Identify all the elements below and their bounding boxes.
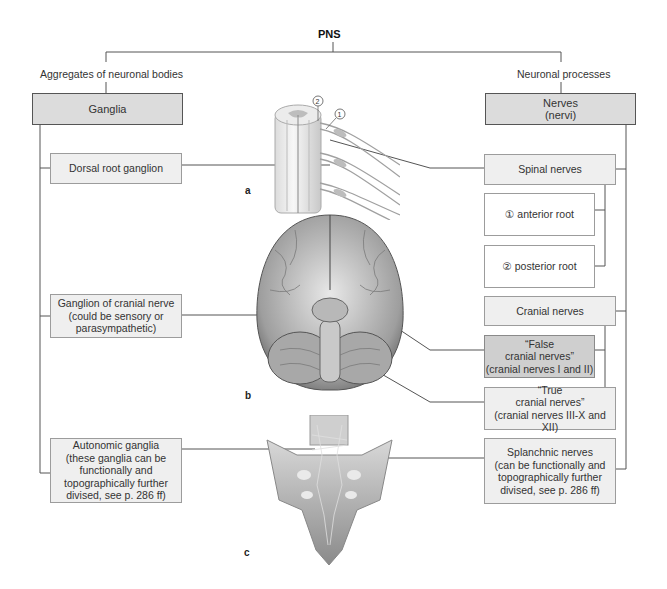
posterior-root-box: ② posterior root bbox=[484, 245, 595, 288]
figure-label-a: a bbox=[245, 185, 251, 196]
spinal-nerves-box: Spinal nerves bbox=[484, 154, 616, 185]
svg-text:1: 1 bbox=[338, 111, 342, 118]
anterior-root-label: ① anterior root bbox=[505, 208, 574, 221]
ganglia-header-box: Ganglia bbox=[32, 93, 183, 125]
cranial-ganglion-label: Ganglion of cranial nerve (could be sens… bbox=[58, 297, 175, 335]
cranial-nerves-label: Cranial nerves bbox=[516, 305, 584, 318]
nerves-header-label: Nerves (nervi) bbox=[543, 97, 578, 122]
anterior-root-box: ① anterior root bbox=[484, 193, 595, 236]
figure-label-c: c bbox=[244, 547, 250, 558]
posterior-root-label: ② posterior root bbox=[502, 260, 576, 273]
dorsal-root-ganglion-label: Dorsal root ganglion bbox=[69, 162, 163, 175]
splanchnic-nerves-box: Splanchnic nerves (can be functionally a… bbox=[484, 438, 616, 504]
cranial-ganglion-box: Ganglion of cranial nerve (could be sens… bbox=[50, 294, 182, 338]
figure-label-b: b bbox=[245, 390, 251, 401]
sacrum-illustration bbox=[262, 415, 397, 570]
splanchnic-nerves-label: Splanchnic nerves (can be functionally a… bbox=[495, 446, 606, 496]
spinal-cord-illustration: 2 1 bbox=[260, 95, 400, 220]
right-heading: Neuronal processes bbox=[517, 68, 610, 80]
brain-illustration bbox=[245, 210, 415, 400]
autonomic-ganglia-label: Autonomic ganglia (these ganglia can be … bbox=[64, 439, 168, 502]
cranial-nerves-box: Cranial nerves bbox=[484, 296, 616, 326]
left-heading: Aggregates of neuronal bodies bbox=[40, 68, 183, 80]
false-cranial-nerves-label: “False cranial nerves” (cranial nerves I… bbox=[486, 338, 593, 376]
true-cranial-nerves-label: “True cranial nerves” (cranial nerves II… bbox=[485, 384, 615, 434]
dorsal-root-ganglion-box: Dorsal root ganglion bbox=[50, 153, 182, 184]
spinal-nerves-label: Spinal nerves bbox=[518, 163, 582, 176]
nerves-header-box: Nerves (nervi) bbox=[485, 93, 636, 125]
true-cranial-nerves-box: “True cranial nerves” (cranial nerves II… bbox=[484, 387, 616, 430]
false-cranial-nerves-box: “False cranial nerves” (cranial nerves I… bbox=[484, 335, 595, 378]
diagram-title: PNS bbox=[318, 28, 341, 40]
svg-text:2: 2 bbox=[316, 98, 320, 105]
autonomic-ganglia-box: Autonomic ganglia (these ganglia can be … bbox=[50, 438, 182, 503]
